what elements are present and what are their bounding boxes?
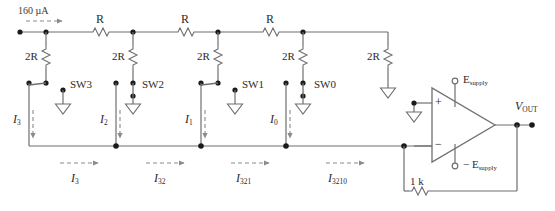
- shunt-resistor-2r-bit0-symbol: [299, 46, 307, 68]
- series-resistor-r3-symbol: [260, 28, 282, 36]
- feedback-resistor-1k-symbol: [409, 187, 431, 195]
- series-resistor-r3-label: R: [266, 13, 274, 25]
- branch-current-i3-label: I3: [13, 113, 21, 127]
- ground-icon-sw1: [228, 104, 243, 114]
- schematic-canvas: [0, 0, 555, 211]
- series-resistor-r1-label: R: [96, 13, 104, 25]
- bus-node-bit2: [113, 143, 119, 149]
- switch-sw3-label: SW3: [70, 79, 92, 90]
- branch-current-i1-label: I1: [185, 113, 193, 127]
- series-resistor-r2-label: R: [181, 13, 189, 25]
- opamp-minus-sign: −: [435, 138, 442, 150]
- shunt-resistor-2r-term-symbol: [384, 46, 392, 68]
- series-resistor-r2-symbol: [175, 28, 197, 36]
- bus-current-i32-label: I32: [154, 172, 165, 186]
- shunt-resistor-2r-bit3-symbol: [42, 46, 50, 68]
- switch-sw2-label: SW2: [142, 79, 164, 90]
- shunt-resistor-2r-term-label: 2R: [367, 51, 380, 62]
- bus-current-i3-label: I3: [71, 172, 79, 186]
- bus-current-i3210-label: I3210: [328, 172, 347, 186]
- shunt-resistor-2r-bit2-label: 2R: [112, 51, 125, 62]
- shunt-resistor-2r-bit1-symbol: [214, 46, 222, 68]
- shunt-resistor-2r-bit0-label: 2R: [282, 51, 295, 62]
- bus-current-i321-label: I321: [236, 172, 251, 186]
- opamp-supply-negative-label: − Esupply: [463, 159, 497, 172]
- switch-sw2[interactable]: [113, 80, 140, 146]
- feedback-resistor-label: 1 k: [410, 176, 424, 187]
- bus-node-bit1: [198, 143, 204, 149]
- opamp-supply-positive-label: Esupply: [463, 74, 488, 87]
- ground-icon-opamp-plus: [407, 112, 422, 122]
- opamp-plus-input: [414, 103, 432, 112]
- branch-current-i0-label: I0: [270, 113, 278, 127]
- source-current-label: 160 µA: [18, 6, 48, 16]
- circuit-diagram: 160 µA R R R 2R 2R 2R 2R 2R SW3 SW2 SW1 …: [0, 0, 555, 211]
- switch-sw0[interactable]: [283, 80, 310, 146]
- source-terminal-node: [17, 29, 22, 34]
- ground-icon-sw0: [296, 104, 311, 114]
- bus-node-bit0: [283, 143, 289, 149]
- opamp-plus-sign: +: [435, 96, 442, 108]
- shunt-resistor-2r-bit3-label: 2R: [25, 51, 38, 62]
- shunt-resistor-2r-bit1-label: 2R: [197, 51, 210, 62]
- opamp-plus-node: [411, 100, 416, 105]
- series-resistor-r1-symbol: [90, 28, 112, 36]
- ground-icon-terminating: [381, 88, 396, 98]
- shunt-resistor-2r-bit2-symbol: [129, 46, 137, 68]
- switch-sw0-label: SW0: [314, 79, 336, 90]
- output-terminal: [529, 122, 535, 128]
- switch-sw1-label: SW1: [242, 79, 264, 90]
- branch-current-i2-label: I2: [100, 113, 108, 127]
- ground-icon-sw2: [126, 104, 141, 114]
- ground-icon-sw3: [56, 104, 71, 114]
- output-voltage-label: VOUT: [515, 100, 538, 114]
